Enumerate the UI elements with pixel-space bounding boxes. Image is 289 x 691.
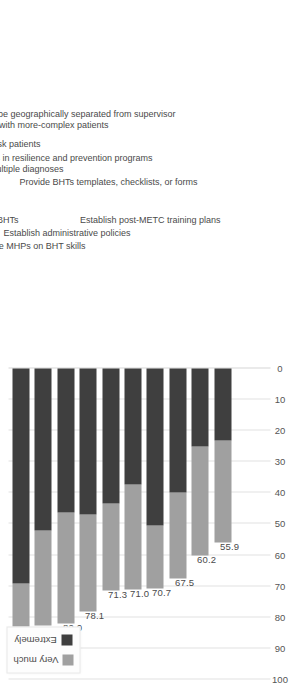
bar-segment-very-much[interactable] bbox=[79, 514, 96, 611]
bar-group[interactable]: 71.0Establish administrative policies bbox=[124, 0, 141, 691]
bar-segment-extremely[interactable] bbox=[102, 368, 119, 503]
bar-group[interactable]: 82.0Train BHTs on treatments for multipl… bbox=[57, 0, 74, 691]
x-axis-tick-label-50: 50 bbox=[268, 518, 286, 529]
bar-group[interactable]: 71.3Train BHTs to implement EBPs with mo… bbox=[102, 0, 119, 691]
bar-segment-very-much[interactable] bbox=[169, 492, 186, 578]
category-label: Educate MHPs on BHT skills bbox=[0, 240, 85, 250]
bar-value-label: 71.3 bbox=[107, 588, 126, 599]
bar-group[interactable]: 55.9Establish post-METC training plans bbox=[214, 0, 231, 691]
bar-segment-extremely[interactable] bbox=[34, 368, 51, 530]
category-label: Professional development for BHTs bbox=[0, 214, 18, 224]
x-axis-tick-label-0: 0 bbox=[268, 363, 286, 374]
bar-segment-extremely[interactable] bbox=[12, 368, 29, 583]
bar-value-label: 67.5 bbox=[174, 576, 193, 587]
bar-value-label: 70.7 bbox=[152, 586, 171, 597]
bar-segment-very-much[interactable] bbox=[124, 484, 141, 589]
bar-segment-very-much[interactable] bbox=[146, 525, 163, 588]
bar-segment-very-much[interactable] bbox=[214, 440, 231, 541]
bar-segment-extremely[interactable] bbox=[169, 368, 186, 492]
bar-group[interactable]: 90.4Professional development for BHTs bbox=[12, 0, 29, 691]
legend-item-very-much: Very much bbox=[13, 654, 73, 665]
bar-segment-very-much[interactable] bbox=[102, 503, 119, 590]
chart-legend: Extremely Very much bbox=[6, 626, 80, 673]
bar-segment-extremely[interactable] bbox=[214, 368, 231, 441]
legend-swatch-very-much-icon bbox=[62, 654, 73, 665]
bar-segment-very-much[interactable] bbox=[34, 530, 51, 625]
bar-group[interactable]: 82.6Train BHTs to implement EBPs with lo… bbox=[34, 0, 51, 691]
category-label: Train BHTs to implement EBPs with lower-… bbox=[0, 138, 40, 148]
bar-group[interactable]: 70.7Certify BHTs in resilience and preve… bbox=[146, 0, 163, 691]
x-axis-tick-label-80: 80 bbox=[268, 611, 286, 622]
bar-segment-extremely[interactable] bbox=[79, 368, 96, 514]
category-label: Establish administrative policies bbox=[3, 228, 130, 238]
x-axis-tick-label-30: 30 bbox=[268, 456, 286, 467]
bar-value-label: 71.0 bbox=[130, 587, 149, 598]
x-axis-tick-label-60: 60 bbox=[268, 549, 286, 560]
bar-segment-very-much[interactable] bbox=[191, 446, 208, 555]
x-axis-tick-label-70: 70 bbox=[268, 580, 286, 591]
bar-segment-extremely[interactable] bbox=[124, 368, 141, 484]
bar-group[interactable]: 78.1Educate MHPs on BHT skills bbox=[79, 0, 96, 691]
legend-swatch-extremely-icon bbox=[61, 634, 72, 645]
legend-label-extremely: Extremely bbox=[14, 634, 56, 645]
category-label: Train BHTs to implement EBPs with more-c… bbox=[0, 120, 108, 130]
category-label: Provide BHTs templates, checklists, or f… bbox=[19, 177, 197, 187]
x-axis-tick-label-100: 100 bbox=[268, 674, 286, 685]
bar-segment-extremely[interactable] bbox=[191, 368, 208, 446]
chart-canvas: 010203040506070809010090.4Professional d… bbox=[0, 0, 285, 691]
bar-value-label: 60.2 bbox=[197, 554, 216, 565]
plot-area: 010203040506070809010090.4Professional d… bbox=[0, 0, 285, 691]
category-label: Certify BHTs in resilience and preventio… bbox=[0, 152, 152, 162]
category-label: Prepare BHTs to be geographically separa… bbox=[0, 109, 175, 119]
legend-item-extremely: Extremely bbox=[14, 634, 71, 645]
category-label: Establish post-METC training plans bbox=[79, 214, 220, 224]
bar-value-label: 55.9 bbox=[219, 540, 238, 551]
category-label: Train BHTs on treatments for multiple di… bbox=[0, 163, 63, 173]
bar-segment-extremely[interactable] bbox=[57, 368, 74, 512]
x-axis-tick-label-90: 90 bbox=[268, 642, 286, 653]
bar-value-label: 78.1 bbox=[85, 609, 104, 620]
bar-segment-extremely[interactable] bbox=[146, 368, 163, 525]
bar-segment-very-much[interactable] bbox=[57, 512, 74, 623]
legend-label-very-much: Very much bbox=[13, 654, 58, 665]
x-axis-tick-label-10: 10 bbox=[268, 394, 286, 405]
bar-group[interactable]: 60.2Provide BHTs templates, checklists, … bbox=[191, 0, 208, 691]
chart-stage: 010203040506070809010090.4Professional d… bbox=[0, 0, 285, 691]
x-axis-tick-label-40: 40 bbox=[268, 487, 286, 498]
x-axis-tick-label-20: 20 bbox=[268, 425, 286, 436]
bar-group[interactable]: 67.5Prepare BHTs to be geographically se… bbox=[169, 0, 186, 691]
